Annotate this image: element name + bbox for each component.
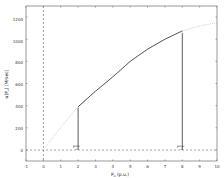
plot-frame <box>26 6 217 161</box>
x-tick-label: 10 <box>214 164 220 169</box>
pmin-annotation: Pminu <box>73 145 80 151</box>
x-tick-label: 4 <box>112 164 115 169</box>
y-tick-label: 0 <box>20 148 23 153</box>
utility-dotted-curve <box>43 23 217 150</box>
y-tick-label: 400 <box>15 104 23 109</box>
y-tick-labels: 0 200 400 600 800 1000 1200 <box>13 17 24 153</box>
x-tick-label: 7 <box>164 164 167 169</box>
utility-chart: -1 0 1 2 3 4 5 6 7 8 9 10 0 200 400 600 … <box>0 0 224 178</box>
y-tick-label: 1200 <box>13 17 24 22</box>
x-ticks <box>26 6 217 161</box>
utility-solid-curve <box>78 31 182 107</box>
y-tick-label: 1000 <box>13 39 24 44</box>
x-axis-label: Pu (p.u.) <box>111 172 129 178</box>
x-tick-label: 3 <box>94 164 97 169</box>
x-tick-label: -1 <box>24 164 28 169</box>
x-tick-label: 1 <box>59 164 62 169</box>
y-tick-label: 800 <box>15 60 23 65</box>
pmax-annotation: Pmaxu <box>177 145 185 151</box>
y-tick-label: 600 <box>15 82 23 87</box>
y-axis-label: u(Pu) [M/sec] <box>4 69 10 98</box>
x-tick-labels: -1 0 1 2 3 4 5 6 7 8 9 10 <box>24 164 220 169</box>
y-tick-label: 200 <box>15 126 23 131</box>
y-ticks <box>26 17 217 150</box>
x-tick-label: 2 <box>77 164 80 169</box>
x-tick-label: 9 <box>198 164 201 169</box>
x-tick-label: 5 <box>129 164 132 169</box>
x-tick-label: 8 <box>181 164 184 169</box>
x-tick-label: 0 <box>42 164 45 169</box>
x-tick-label: 6 <box>146 164 149 169</box>
